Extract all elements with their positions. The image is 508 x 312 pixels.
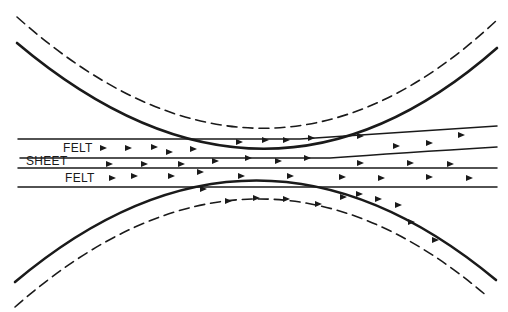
- upper-roll-surface: [17, 43, 497, 149]
- felt-top-upper-line: [18, 126, 497, 139]
- press-nip-diagram: FELT SHEET FELT: [0, 0, 508, 312]
- sheet-label: SHEET: [26, 155, 68, 167]
- felt-bottom-label: FELT: [65, 172, 95, 184]
- felt-top-label: FELT: [63, 142, 93, 154]
- diagram-canvas: [0, 0, 508, 312]
- lower-roll-dashed-boundary: [15, 199, 488, 307]
- upper-roll-dashed-boundary: [17, 17, 497, 128]
- lower-roll-surface: [15, 180, 496, 282]
